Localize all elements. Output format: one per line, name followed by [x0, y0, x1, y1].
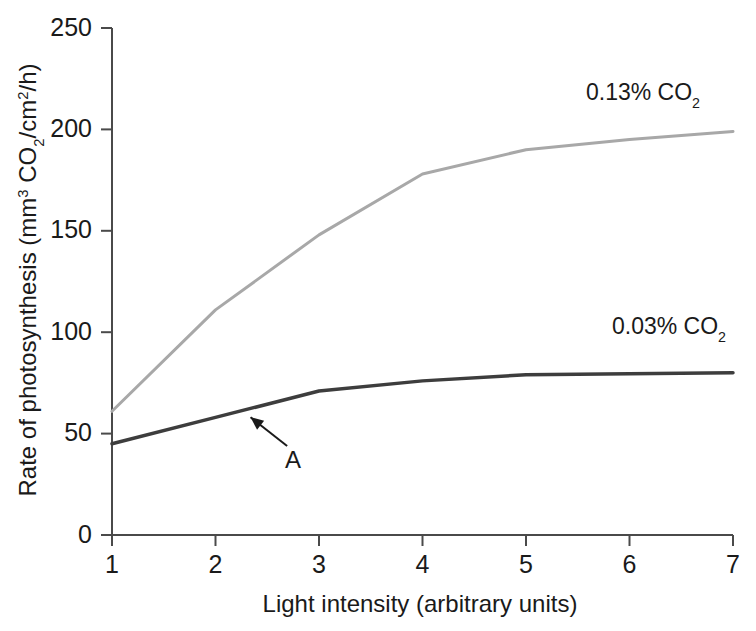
- y-axis-title: Rate of photosynthesis (mm3 CO2/cm2/h): [14, 64, 47, 497]
- chart-canvas: 050100150200250 1234567 0.13% CO20.03% C…: [0, 0, 756, 631]
- y-tick-label: 0: [78, 520, 92, 548]
- series-label-1: 0.03% CO2: [612, 313, 726, 345]
- chart-annotations: A: [251, 417, 302, 473]
- x-axis-title: Light intensity (arbitrary units): [263, 590, 578, 617]
- y-tick-label: 200: [50, 114, 92, 142]
- x-tick-label: 7: [726, 550, 740, 578]
- y-tick-label: 50: [64, 418, 92, 446]
- annotation-label-a: A: [285, 446, 301, 473]
- photosynthesis-light-intensity-chart: 050100150200250 1234567 0.13% CO20.03% C…: [0, 0, 756, 631]
- series-line-0: [112, 131, 733, 411]
- x-axis-ticks: 1234567: [105, 535, 740, 578]
- series-line-1: [112, 373, 733, 444]
- annotation-arrow-head: [251, 417, 265, 429]
- series-lines: [112, 131, 733, 443]
- x-tick-label: 3: [312, 550, 326, 578]
- y-tick-label: 150: [50, 215, 92, 243]
- x-tick-label: 1: [105, 550, 119, 578]
- x-tick-label: 6: [623, 550, 637, 578]
- y-tick-label: 250: [50, 13, 92, 41]
- y-axis-ticks: 050100150200250: [50, 13, 112, 548]
- x-tick-label: 4: [416, 550, 430, 578]
- x-tick-label: 5: [519, 550, 533, 578]
- series-label-0: 0.13% CO2: [586, 79, 700, 111]
- series-labels: 0.13% CO20.03% CO2: [586, 79, 726, 345]
- y-tick-label: 100: [50, 317, 92, 345]
- x-tick-label: 2: [209, 550, 223, 578]
